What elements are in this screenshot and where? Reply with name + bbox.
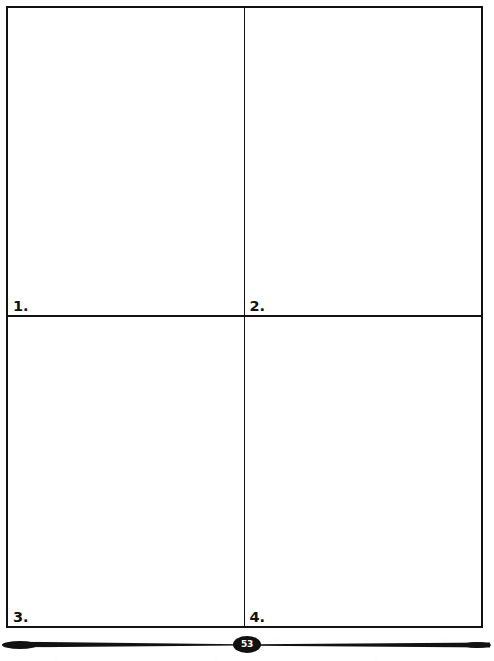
- page-number-badge: 53: [233, 636, 261, 653]
- answer-box-4-number: 4.: [250, 610, 265, 625]
- footer-rule-left-cap: [2, 641, 38, 649]
- four-box-answer-grid: 1. 2. 3. 4.: [6, 6, 483, 628]
- page-footer: 53: [0, 628, 494, 661]
- answer-box-4-writing-area[interactable]: [245, 317, 482, 606]
- answer-box-1-number: 1.: [13, 299, 28, 314]
- answer-box-3[interactable]: 3.: [8, 317, 245, 626]
- answer-box-2-number: 2.: [250, 299, 265, 314]
- answer-box-3-number: 3.: [13, 610, 28, 625]
- answer-box-1-writing-area[interactable]: [8, 8, 244, 295]
- footer-rule-right: [250, 642, 490, 648]
- footer-rule-right-cap: [463, 642, 491, 649]
- answer-box-3-writing-area[interactable]: [8, 317, 244, 606]
- answer-box-2-writing-area[interactable]: [245, 8, 482, 295]
- answer-box-2[interactable]: 2.: [245, 8, 482, 317]
- worksheet-page: 1. 2. 3. 4. 53: [0, 0, 494, 661]
- answer-box-4[interactable]: 4.: [245, 317, 482, 626]
- answer-box-1[interactable]: 1.: [8, 8, 245, 317]
- page-number-value: 53: [241, 640, 253, 649]
